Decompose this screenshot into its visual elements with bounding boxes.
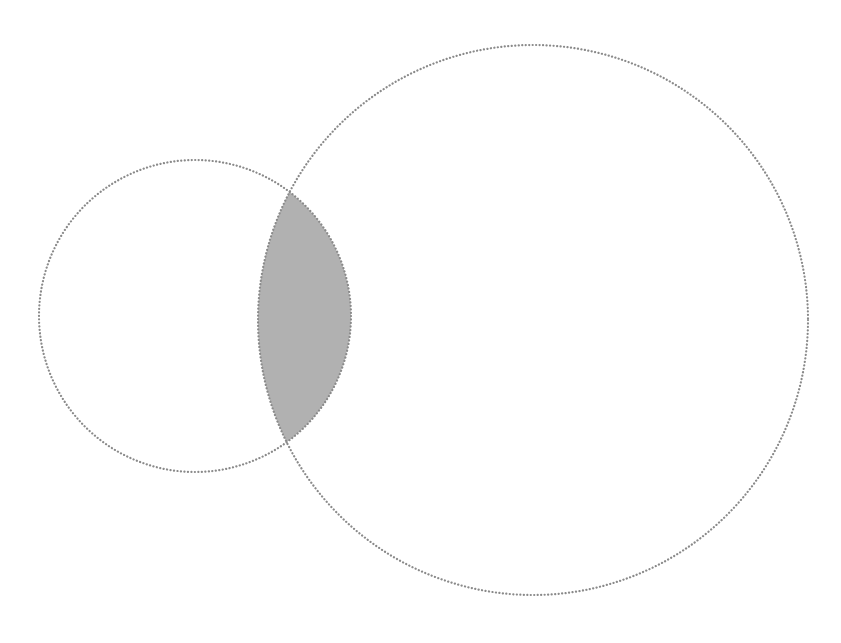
overlap-region xyxy=(258,45,808,595)
venn-diagram xyxy=(0,0,841,643)
